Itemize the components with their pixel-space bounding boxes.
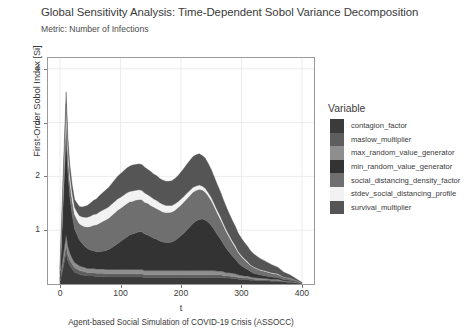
y-axis-label: First-Order Sobol Index [Si] — [32, 26, 42, 176]
legend-swatch — [330, 173, 344, 187]
chart-subtitle: Metric: Number of Infections — [41, 24, 148, 34]
stacked-area-plot — [48, 58, 314, 284]
y-tick-label: 1 — [35, 224, 40, 234]
chart-title: Global Sensitivity Analysis: Time-Depend… — [41, 6, 418, 18]
legend-swatch — [330, 187, 344, 201]
y-tick-label: 3 — [35, 117, 40, 127]
x-tick-label: 100 — [106, 288, 136, 298]
x-axis-label: t — [47, 303, 315, 313]
x-tick-label: 0 — [45, 288, 75, 298]
legend-item[interactable]: max_random_value_generator — [330, 146, 460, 160]
legend-label: survival_multiplier — [351, 203, 411, 212]
legend-swatch — [330, 133, 344, 147]
legend-item[interactable]: stdev_social_distancing_profile — [330, 187, 460, 201]
chart-figure: Global Sensitivity Analysis: Time-Depend… — [0, 0, 471, 336]
plot-area — [47, 57, 315, 285]
x-tick-mark — [60, 285, 61, 288]
y-tick-label: 2 — [35, 170, 40, 180]
x-tick-label: 200 — [166, 288, 196, 298]
legend: contagion_factormaslow_multipliermax_ran… — [330, 119, 460, 214]
legend-label: maslow_multiplier — [351, 135, 411, 144]
x-tick-mark — [181, 285, 182, 288]
x-tick-label: 300 — [226, 288, 256, 298]
legend-label: stdev_social_distancing_profile — [351, 189, 456, 198]
legend-label: min_random_value_generator — [351, 162, 452, 171]
legend-title: Variable — [328, 103, 365, 114]
x-tick-mark — [241, 285, 242, 288]
legend-item[interactable]: contagion_factor — [330, 119, 460, 133]
x-tick-label: 400 — [287, 288, 317, 298]
legend-item[interactable]: maslow_multiplier — [330, 133, 460, 147]
legend-swatch — [330, 201, 344, 215]
legend-item[interactable]: survival_multiplier — [330, 201, 460, 215]
legend-swatch — [330, 160, 344, 174]
x-tick-mark — [121, 285, 122, 288]
legend-item[interactable]: min_random_value_generator — [330, 160, 460, 174]
legend-item[interactable]: social_distancing_density_factor — [330, 173, 460, 187]
y-tick-label: 4 — [35, 63, 40, 73]
legend-swatch — [330, 119, 344, 133]
legend-label: contagion_factor — [351, 121, 407, 130]
legend-label: social_distancing_density_factor — [351, 176, 460, 185]
legend-swatch — [330, 146, 344, 160]
legend-label: max_random_value_generator — [351, 148, 454, 157]
x-tick-mark — [302, 285, 303, 288]
chart-caption: Agent-based Social Simulation of COVID-1… — [47, 318, 315, 327]
